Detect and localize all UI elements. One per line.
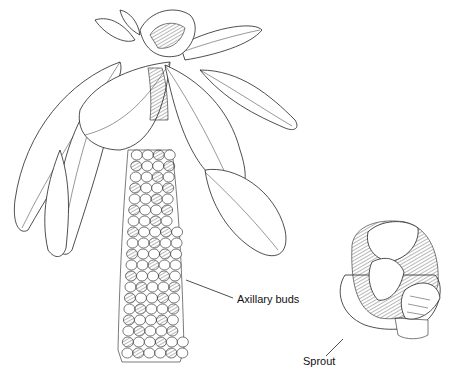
axillary-bud [159,271,170,281]
axillary-bud [145,315,156,325]
axillary-bud [177,337,188,347]
axillary-bud [130,183,141,193]
axillary-bud [170,260,181,270]
axillary-bud [145,326,156,336]
axillary-bud [160,238,171,248]
axillary-bud [124,293,135,303]
axillary-bud [151,205,162,215]
leader-line-axillary-buds [186,280,233,298]
axillary-bud [127,238,138,248]
axillary-bud [170,271,181,281]
axillary-bud [151,194,162,204]
axillary-bud [142,150,153,160]
axillary-bud [163,183,174,193]
axillary-bud [138,238,149,248]
axillary-bud [167,326,178,336]
axillary-bud [129,194,140,204]
stem-with-axillary-buds [118,150,188,362]
axillary-bud [168,293,179,303]
axillary-bud [162,194,173,204]
axillary-bud [137,260,148,270]
axillary-bud [127,249,138,259]
axillary-bud [168,304,179,314]
axillary-bud [138,249,149,259]
axillary-bud [147,282,158,292]
axillary-bud [146,293,157,303]
axillary-bud [125,282,136,292]
axillary-bud [128,216,139,226]
axillary-bud [136,282,147,292]
axillary-bud [157,304,168,314]
axillary-bud [150,227,161,237]
axillary-bud [122,337,133,347]
axillary-bud [171,238,182,248]
axillary-bud [128,227,139,237]
axillary-bud [158,282,169,292]
axillary-bud [129,205,140,215]
axillary-bud [166,348,177,358]
label-axillary-buds: Axillary buds [237,293,299,305]
axillary-bud [164,161,175,171]
axillary-bud [135,304,146,314]
axillary-bud [162,205,173,215]
axillary-bud [134,326,145,336]
axillary-bud [152,172,163,182]
axillary-bud [126,260,137,270]
axillary-bud [134,315,145,325]
axillary-bud [159,260,170,270]
axillary-bud [126,271,137,281]
axillary-bud [157,293,168,303]
axillary-bud [140,194,151,204]
sprout-detail [340,221,440,339]
axillary-bud [166,337,177,347]
axillary-bud [123,326,134,336]
axillary-bud [160,249,171,259]
axillary-bud [131,150,142,160]
axillary-bud [130,172,141,182]
plant-illustration [0,0,469,378]
leader-line-sprout [326,339,343,356]
axillary-bud [140,205,151,215]
axillary-bud [153,161,164,171]
axillary-bud [133,337,144,347]
axillary-bud [163,172,174,182]
axillary-bud [122,348,133,358]
axillary-bud [142,161,153,171]
axillary-bud [146,304,157,314]
axillary-bud [171,249,182,259]
axillary-bud [137,271,148,281]
axillary-bud [139,216,150,226]
axillary-bud [149,238,160,248]
axillary-bud [135,293,146,303]
axillary-bud [172,227,183,237]
top-rosette [95,10,195,57]
axillary-bud [148,260,159,270]
axillary-bud [156,315,167,325]
leaf-right-lower [205,169,286,255]
axillary-bud [169,282,180,292]
axillary-bud [161,227,172,237]
axillary-bud [177,348,188,358]
axillary-bud [152,183,163,193]
axillary-bud [144,348,155,358]
axillary-bud [150,216,161,226]
axillary-bud [123,315,134,325]
axillary-bud [124,304,135,314]
axillary-bud [167,315,178,325]
axillary-bud [133,348,144,358]
axillary-bud [148,271,159,281]
label-sprout: Sprout [303,355,335,367]
axillary-bud [141,183,152,193]
axillary-bud [161,216,172,226]
axillary-bud [156,326,167,336]
illustration-canvas: Axillary buds Sprout [0,0,469,378]
axillary-bud [149,249,160,259]
axillary-bud [141,172,152,182]
axillary-bud [155,348,166,358]
axillary-bud [155,337,166,347]
axillary-bud [139,227,150,237]
axillary-bud [164,150,175,160]
axillary-bud [131,161,142,171]
axillary-bud [144,337,155,347]
axillary-bud [153,150,164,160]
